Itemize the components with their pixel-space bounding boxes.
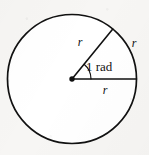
radius-horizontal-label: r: [103, 83, 108, 97]
radius-arc-label: r: [132, 36, 137, 50]
figure-canvas: r r 1 rad r: [0, 0, 149, 155]
radius-slanted-label: r: [78, 35, 83, 49]
radian-circle-figure: r r 1 rad r: [0, 0, 149, 155]
center-dot: [69, 76, 74, 81]
angle-value-label: 1 rad: [86, 59, 113, 74]
